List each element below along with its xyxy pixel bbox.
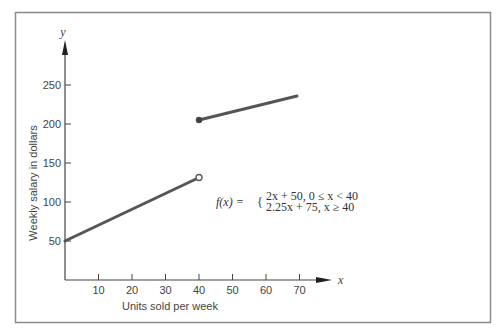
formula-brace-icon: { [257,195,263,209]
formula-line-2: 2.25x + 75, x ≥ 40 [266,200,354,214]
x-tick-label: 40 [193,284,205,296]
x-tick-labels: 10 20 30 40 50 60 70 [92,284,305,296]
x-tick-label: 50 [226,284,238,296]
x-axis-title: Units sold per week [122,300,218,312]
x-tick-label: 60 [260,284,272,296]
y-tick-label: 100 [43,196,61,208]
y-tick-label: 250 [43,79,61,91]
formula-lhs: f(x) = [216,195,244,209]
y-axis-var: y [59,25,66,39]
x-axis-arrow-icon [316,277,332,283]
formula-annotation: f(x) = { 2x + 50, 0 ≤ x < 40 2.25x + 75,… [216,189,358,214]
y-ticks [65,85,71,241]
x-tick-label: 10 [92,284,104,296]
open-circle-marker-icon [196,175,202,181]
y-tick-label: 50 [49,235,61,247]
x-tick-label: 70 [293,284,305,296]
y-tick-label: 200 [43,118,61,130]
y-axis-arrow-icon [62,40,68,55]
x-axis-var: x [337,273,344,287]
series-line-lower [65,179,196,241]
filled-circle-marker-icon [196,117,202,123]
y-axis-title: Weekly salary in dollars [27,125,39,241]
chart: y x 10 20 30 40 50 60 70 50 100 150 200 … [0,0,504,332]
y-tick-label: 150 [43,157,61,169]
x-tick-label: 30 [159,284,171,296]
x-ticks [99,274,300,280]
y-tick-labels: 50 100 150 200 250 [43,79,61,247]
chart-frame [16,13,491,323]
series-line-upper [199,96,297,120]
x-tick-label: 20 [126,284,138,296]
